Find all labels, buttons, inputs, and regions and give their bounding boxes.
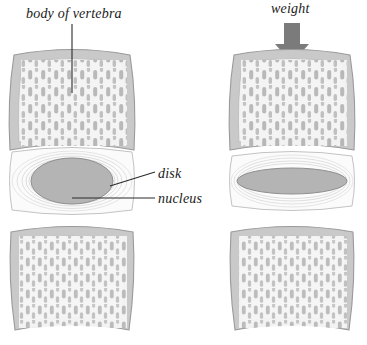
- lower-vertebral-body-right: [230, 227, 354, 331]
- nucleus-pulposus-left: [31, 158, 113, 204]
- panel-loaded: [229, 23, 355, 330]
- label-nucleus: nucleus: [158, 191, 202, 207]
- nucleus-pulposus-right: [237, 168, 347, 194]
- label-disk: disk: [158, 166, 181, 182]
- label-body-of-vertebra: body of vertebra: [26, 6, 122, 22]
- figure-canvas: body of vertebra weight disk nucleus: [0, 0, 367, 345]
- anatomy-illustration: [0, 0, 367, 345]
- upper-vertebral-body-right: [229, 50, 355, 151]
- label-weight: weight: [271, 1, 310, 17]
- intervertebral-disk-right: [230, 152, 355, 211]
- intervertebral-disk-left: [10, 148, 135, 215]
- lower-vertebral-body-left: [10, 227, 134, 331]
